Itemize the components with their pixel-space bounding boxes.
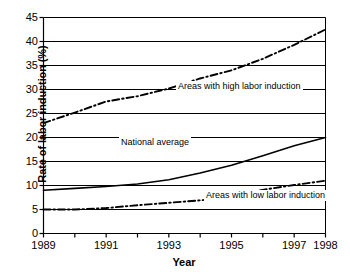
x-axis-title: Year (43, 256, 325, 268)
x-tick-label: 1991 (94, 239, 118, 251)
x-tick-label: 1989 (31, 239, 55, 251)
series-line-1 (44, 30, 326, 124)
series-label-national: National average (119, 137, 191, 148)
series-label-high: Areas with high labor induction (176, 81, 303, 92)
x-tick-label: 1997 (282, 239, 306, 251)
x-tick-label: 1993 (157, 239, 181, 251)
x-tick-label: 1995 (219, 239, 243, 251)
line-chart: Rate of labor induction (%) 051015202530… (0, 0, 350, 276)
series-label-low: Areas with low labor induction (204, 190, 327, 201)
x-tick-label: 1998 (313, 239, 337, 251)
